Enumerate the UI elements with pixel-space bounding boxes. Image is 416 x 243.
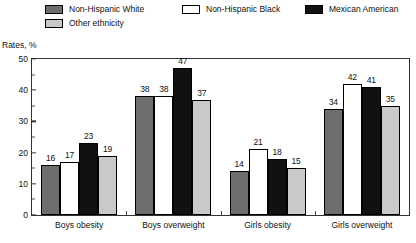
bar-value-label: 47 <box>178 57 187 66</box>
legend-label-non-hispanic-white: Non-Hispanic White <box>69 5 144 14</box>
bar-group: 34424135 <box>324 59 400 215</box>
y-axis-tick-label: 0 <box>23 211 28 220</box>
bar-slot: 42 <box>343 59 362 215</box>
x-axis-minor-tick <box>221 211 222 215</box>
y-axis-tick-label: 10 <box>19 180 28 189</box>
y-axis-tick <box>32 152 36 153</box>
bar-group: 16172319 <box>41 59 117 215</box>
legend-item-non-hispanic-white: Non-Hispanic White <box>45 5 144 14</box>
bar-slot: 35 <box>381 59 400 215</box>
bar[interactable] <box>173 68 192 215</box>
chart-plot-inner: 0102030405016172319383847371421181534424… <box>32 59 409 215</box>
y-axis-caption: Rates, % <box>2 40 37 50</box>
bar[interactable] <box>230 171 249 215</box>
bar-slot: 38 <box>135 59 154 215</box>
bar[interactable] <box>79 143 98 215</box>
y-axis-tick-label: 40 <box>19 86 28 95</box>
bar-slot: 17 <box>60 59 79 215</box>
bar-slot: 18 <box>268 59 287 215</box>
y-axis-tick <box>32 58 36 59</box>
x-axis-minor-tick <box>126 211 127 215</box>
bar[interactable] <box>41 165 60 215</box>
legend-item-other-ethnicity: Other ethnicity <box>45 19 124 28</box>
y-axis-minor-tick <box>32 199 35 200</box>
y-axis-tick <box>32 121 36 122</box>
bar-slot: 37 <box>192 59 211 215</box>
bar[interactable] <box>268 159 287 215</box>
bar-value-label: 34 <box>329 98 338 107</box>
bar[interactable] <box>287 168 306 215</box>
bar-slot: 16 <box>41 59 60 215</box>
bar-slot: 15 <box>287 59 306 215</box>
legend-swatch-other-ethnicity <box>45 19 63 28</box>
legend-label-non-hispanic-black: Non-Hispanic Black <box>206 5 280 14</box>
bar[interactable] <box>154 96 173 215</box>
x-axis-category-label: Girls obesity <box>244 220 291 230</box>
y-axis-minor-tick <box>32 168 35 169</box>
bar[interactable] <box>343 84 362 215</box>
bar-value-label: 16 <box>46 154 55 163</box>
legend-swatch-non-hispanic-white <box>45 5 63 14</box>
y-axis-tick <box>32 183 36 184</box>
bar-value-label: 37 <box>197 89 206 98</box>
bar[interactable] <box>381 106 400 215</box>
bar-value-label: 23 <box>84 132 93 141</box>
bar-value-label: 38 <box>159 85 168 94</box>
bar[interactable] <box>60 162 79 215</box>
y-axis-tick <box>32 214 36 215</box>
bar-value-label: 35 <box>386 95 395 104</box>
bar-slot: 19 <box>98 59 117 215</box>
y-axis-tick-label: 20 <box>19 148 28 157</box>
bar-slot: 38 <box>154 59 173 215</box>
bar-value-label: 42 <box>348 73 357 82</box>
bar-value-label: 18 <box>272 148 281 157</box>
bar[interactable] <box>192 100 211 215</box>
bar-value-label: 14 <box>234 160 243 169</box>
y-axis-tick-label: 50 <box>19 55 28 64</box>
chart-plot-area: 0102030405016172319383847371421181534424… <box>31 58 410 216</box>
legend-label-other-ethnicity: Other ethnicity <box>69 19 124 28</box>
bar-slot: 21 <box>249 59 268 215</box>
legend-swatch-non-hispanic-black <box>182 5 200 14</box>
bar-value-label: 19 <box>103 145 112 154</box>
legend-item-non-hispanic-black: Non-Hispanic Black <box>182 5 280 14</box>
bar-value-label: 38 <box>140 85 149 94</box>
y-axis-minor-tick <box>32 137 35 138</box>
bar-group: 38384737 <box>135 59 211 215</box>
legend-label-mexican-american: Mexican American <box>329 5 398 14</box>
bar-value-label: 15 <box>291 157 300 166</box>
bar[interactable] <box>98 156 117 215</box>
legend-swatch-mexican-american <box>305 5 323 14</box>
y-axis-minor-tick <box>32 105 35 106</box>
bar-value-label: 17 <box>65 151 74 160</box>
bar-value-label: 21 <box>253 138 262 147</box>
bar-slot: 14 <box>230 59 249 215</box>
bar[interactable] <box>249 149 268 215</box>
y-axis-tick-label: 30 <box>19 117 28 126</box>
bar[interactable] <box>135 96 154 215</box>
bar[interactable] <box>324 109 343 215</box>
bar-slot: 34 <box>324 59 343 215</box>
legend-item-mexican-american: Mexican American <box>305 5 398 14</box>
x-axis-category-label: Girls overweight <box>331 220 392 230</box>
bar-value-label: 41 <box>367 76 376 85</box>
y-axis-minor-tick <box>32 74 35 75</box>
bar-slot: 41 <box>362 59 381 215</box>
bar-slot: 47 <box>173 59 192 215</box>
x-axis-minor-tick <box>315 211 316 215</box>
chart-legend: Non-Hispanic White Other ethnicity Non-H… <box>0 0 416 36</box>
y-axis-tick <box>32 90 36 91</box>
bar-slot: 23 <box>79 59 98 215</box>
x-axis-category-label: Boys obesity <box>55 220 103 230</box>
bar-group: 14211815 <box>230 59 306 215</box>
x-axis-category-label: Boys overweight <box>142 220 204 230</box>
bar[interactable] <box>362 87 381 215</box>
